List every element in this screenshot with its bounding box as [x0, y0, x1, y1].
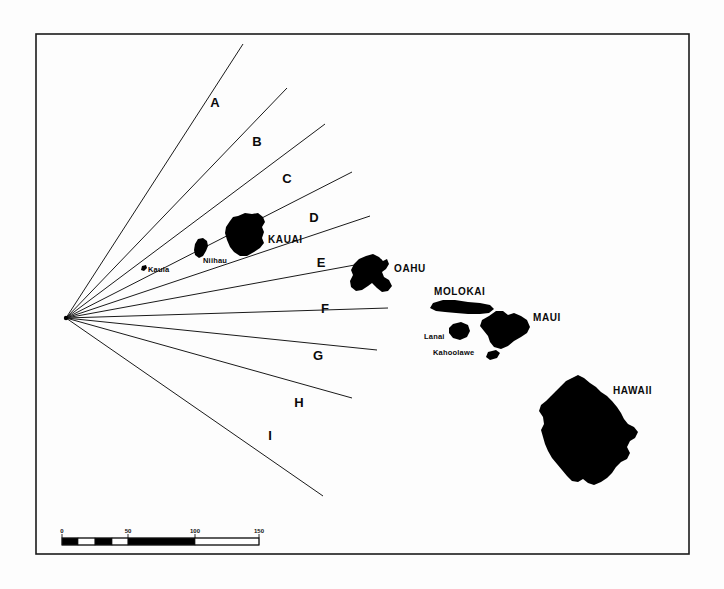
island-shape-lanai	[449, 322, 470, 340]
scale-segment-3	[112, 538, 128, 545]
island-label-hawaii: HAWAII	[613, 385, 652, 396]
scale-bar-segments	[62, 538, 259, 545]
sector-label-a: A	[210, 95, 220, 110]
radial-line-line-10	[66, 318, 323, 496]
radial-origin-marker	[64, 316, 68, 320]
map-canvas: 050100150 ABCDEFGHI KAUAINiihauKaulaOAHU…	[0, 0, 724, 589]
sector-label-e: E	[317, 255, 326, 270]
island-label-lanai: Lanai	[424, 332, 445, 341]
radial-line-line-3	[66, 124, 325, 318]
island-label-oahu: OAHU	[394, 263, 426, 274]
sector-label-c: C	[282, 171, 292, 186]
sector-letter-labels: ABCDEFGHI	[210, 95, 329, 443]
hawaii-sector-map: 050100150 ABCDEFGHI KAUAINiihauKaulaOAHU…	[0, 0, 724, 589]
scale-segment-2	[95, 538, 112, 545]
island-shape-kauai	[225, 213, 265, 256]
island-shape-niihau	[194, 238, 208, 258]
radial-line-line-4	[66, 172, 352, 318]
island-label-kauai: KAUAI	[268, 234, 303, 245]
radial-line-line-9	[66, 318, 352, 398]
island-label-maui: MAUI	[533, 312, 561, 323]
island-shape-kahoolawe	[486, 350, 500, 360]
island-shape-kaula	[141, 265, 147, 271]
island-label-molokai: MOLOKAI	[434, 286, 485, 297]
sector-label-g: G	[313, 348, 323, 363]
sector-label-b: B	[252, 134, 261, 149]
scale-tick-label-100: 100	[190, 528, 201, 534]
sector-label-d: D	[309, 210, 318, 225]
island-label-kahoolawe: Kahoolawe	[433, 348, 474, 357]
island-shape-maui	[480, 311, 530, 349]
island-shapes-group	[141, 213, 638, 485]
island-shape-oahu	[350, 254, 392, 292]
scale-segment-5	[195, 538, 259, 545]
island-shape-molokai	[430, 300, 494, 314]
island-label-kaula: Kaula	[148, 265, 170, 274]
scale-segment-4	[128, 538, 195, 545]
radial-sector-lines	[66, 44, 388, 496]
scale-segment-0	[62, 538, 78, 545]
island-label-niihau: Niihau	[203, 256, 227, 265]
sector-label-f: F	[321, 301, 329, 316]
scale-tick-label-150: 150	[254, 528, 265, 534]
sector-label-h: H	[294, 395, 303, 410]
scale-bar: 050100150	[60, 528, 264, 545]
island-name-labels: KAUAINiihauKaulaOAHUMOLOKAIMAUILanaiKaho…	[148, 234, 652, 396]
sector-label-i: I	[268, 428, 272, 443]
scale-segment-1	[78, 538, 95, 545]
radial-line-line-1	[66, 44, 243, 318]
radial-line-line-8	[66, 318, 377, 350]
scale-tick-label-50: 50	[125, 528, 132, 534]
scale-tick-label-0: 0	[60, 528, 64, 534]
scale-bar-tick-labels: 050100150	[60, 528, 264, 538]
